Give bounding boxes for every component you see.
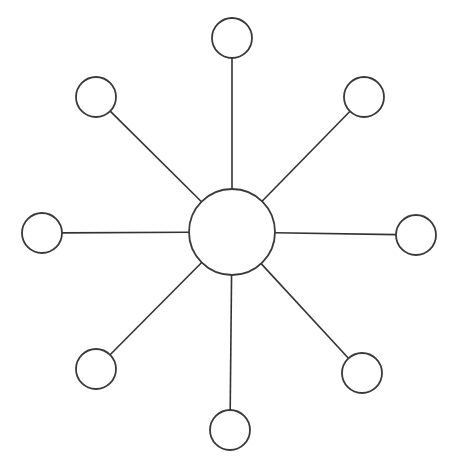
edge-hub-to-right	[275, 233, 396, 235]
satellite-node-bottom-right	[342, 353, 382, 393]
satellite-node-bottom-left	[76, 349, 116, 389]
edge-hub-to-left	[62, 232, 189, 233]
satellite-node-top-right	[344, 77, 384, 117]
satellite-node-left	[22, 213, 62, 253]
satellite-node-right	[396, 215, 436, 255]
edge-hub-to-top-right	[262, 111, 350, 201]
edge-hub-to-bottom-left	[110, 263, 202, 355]
edge-hub-to-top-left	[110, 111, 201, 202]
satellite-node-top	[212, 18, 252, 58]
star-network-diagram	[0, 0, 456, 473]
hub-node	[189, 189, 275, 275]
edge-hub-to-bottom-right	[261, 264, 348, 359]
satellite-node-top-left	[76, 77, 116, 117]
satellite-node-bottom	[210, 410, 250, 450]
edge-hub-to-bottom	[230, 275, 231, 410]
